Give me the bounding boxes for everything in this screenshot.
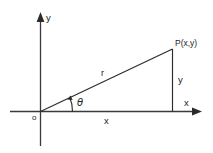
hypotenuse-segment (41, 49, 173, 112)
adjacent-side-label: x (104, 115, 109, 126)
point-p-label: P(x,y) (175, 38, 197, 48)
geometry-diagram: y x o P(x,y) r θ y x (0, 0, 213, 153)
angle-theta-label: θ (77, 97, 83, 108)
y-axis-label: y (46, 12, 51, 23)
hypotenuse-label: r (101, 68, 104, 78)
opposite-side-label: y (178, 74, 183, 85)
diagram-canvas: y x o P(x,y) r θ y x (0, 0, 213, 153)
x-axis-label: x (184, 97, 189, 108)
origin-label: o (32, 113, 37, 122)
y-axis-arrowhead-icon (37, 12, 45, 22)
x-axis-arrowhead-icon (192, 107, 202, 115)
